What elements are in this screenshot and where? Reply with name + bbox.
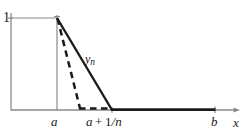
curve-label-yn: yn <box>85 53 95 67</box>
label-part-n: n <box>115 114 122 129</box>
curve-yn-dashed-descending <box>58 19 81 109</box>
x-axis-label-a: a <box>51 115 58 128</box>
x-axis-label-a-plus-one-over-n: a + 1/n <box>86 115 122 128</box>
y-axis-label-one: 1 <box>3 11 10 25</box>
figure-container: 1 a a + 1/n b x yn <box>0 0 250 139</box>
curve-label-subscript: n <box>90 57 95 67</box>
x-axis-arrowhead-icon <box>234 107 241 112</box>
x-axis-name-label: x <box>233 116 239 129</box>
x-axis-label-b: b <box>211 115 218 128</box>
